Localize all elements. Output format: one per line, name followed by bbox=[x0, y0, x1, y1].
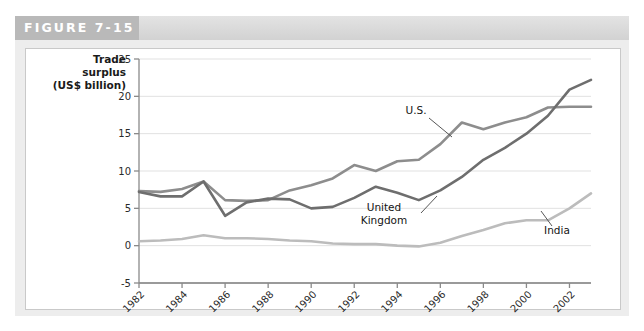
y-axis-title: Trade surplus (US$ billion) bbox=[48, 53, 126, 92]
y-axis-title-line-2: surplus bbox=[48, 66, 126, 79]
y-axis-title-line-1: Trade bbox=[48, 53, 126, 66]
figure-screenshot: FIGURE 7-15 Trade surplus (US$ billion) … bbox=[0, 0, 644, 331]
figure-number-label: FIGURE 7-15 bbox=[24, 20, 135, 35]
y-axis-title-line-3: (US$ billion) bbox=[48, 79, 126, 92]
